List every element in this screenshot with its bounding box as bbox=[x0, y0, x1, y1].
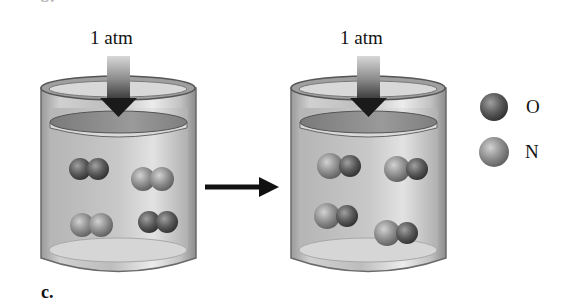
molecule-no bbox=[317, 153, 361, 179]
pressure-label-initial: 1 atm bbox=[90, 28, 133, 48]
part-label: c. bbox=[41, 282, 54, 303]
process-arrow-icon bbox=[205, 177, 279, 197]
legend-nitrogen-label: N bbox=[525, 142, 539, 162]
molecule-no bbox=[384, 156, 428, 182]
pressure-label-final: 1 atm bbox=[340, 28, 383, 48]
legend-oxygen-ball-icon bbox=[480, 93, 508, 121]
legend-nitrogen-ball-icon bbox=[479, 137, 509, 167]
molecule-no bbox=[314, 203, 358, 229]
cropped-part-label: b. bbox=[40, 0, 55, 7]
molecule-no bbox=[374, 220, 418, 246]
beaker-initial bbox=[41, 56, 196, 272]
legend-oxygen-label: O bbox=[526, 97, 540, 117]
diagram-canvas bbox=[0, 0, 568, 305]
